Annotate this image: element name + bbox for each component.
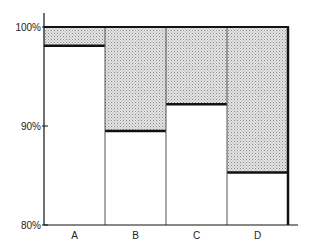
y-tick-label-80: 80% xyxy=(21,220,41,231)
bar-upper-c xyxy=(166,27,227,104)
y-tick-label-100: 100% xyxy=(15,22,41,33)
bar-lower-d xyxy=(227,173,288,225)
bar-lower-b xyxy=(105,131,166,225)
bar-upper-b xyxy=(105,27,166,131)
x-tick-label-a: A xyxy=(71,230,78,241)
x-tick-label-c: C xyxy=(193,230,200,241)
bar-lower-c xyxy=(166,104,227,225)
bar-upper-d xyxy=(227,27,288,173)
bars-group xyxy=(44,27,288,225)
y-tick-label-90: 90% xyxy=(21,121,41,132)
bar-upper-a xyxy=(44,27,105,46)
bar-chart: ABCD80%90%100% xyxy=(0,0,312,250)
x-tick-label-b: B xyxy=(132,230,139,241)
bar-lower-a xyxy=(44,46,105,225)
x-tick-label-d: D xyxy=(254,230,261,241)
